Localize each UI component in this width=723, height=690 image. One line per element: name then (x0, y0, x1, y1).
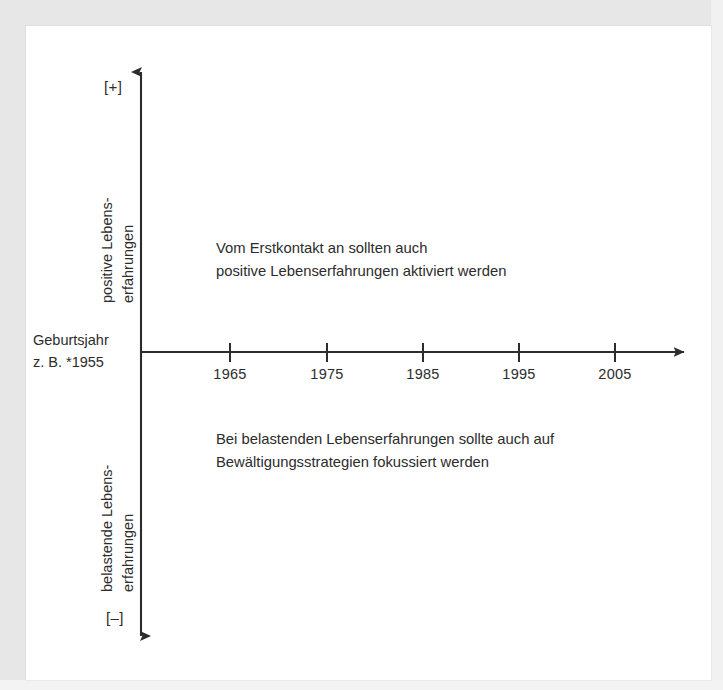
axis-positive-pole-label: [+] (104, 78, 122, 95)
page-margin-top (0, 0, 723, 26)
x-tick-label-1985: 1985 (406, 366, 439, 382)
page-margin-bottom (0, 680, 723, 690)
x-tick-label-2005: 2005 (598, 366, 631, 382)
figure-canvas: [+] [–] positive Lebens- erfahrungen bel… (0, 0, 723, 690)
y-axis-upper-caption: positive Lebens- erfahrungen (97, 197, 138, 303)
x-tick-label-1975: 1975 (310, 366, 343, 382)
origin-birth-year-label: Geburtsjahr z. B. *1955 (33, 330, 137, 374)
y-axis-lower-caption: belastende Lebens- erfahrungen (97, 465, 138, 592)
axis-negative-pole-label: [–] (106, 609, 124, 626)
page-margin-right (711, 0, 723, 690)
x-tick-label-1995: 1995 (502, 366, 535, 382)
annotation-upper-quadrant: Vom Erstkontakt an sollten auch positive… (216, 237, 506, 283)
page-margin-left (0, 0, 26, 690)
annotation-lower-quadrant: Bei belastenden Lebenserfahrungen sollte… (216, 428, 554, 474)
x-tick-label-1965: 1965 (213, 366, 246, 382)
